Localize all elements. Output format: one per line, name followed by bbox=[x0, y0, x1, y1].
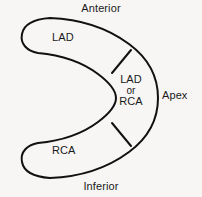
divider-lower bbox=[112, 123, 131, 146]
coronary-territory-diagram: Anterior Inferior Apex LAD RCA LAD or RC… bbox=[0, 0, 202, 197]
orientation-label-inferior: Inferior bbox=[0, 181, 202, 193]
segment-label-rca-lower: RCA bbox=[52, 145, 76, 157]
segment-label-lad-upper: LAD bbox=[52, 32, 74, 44]
apex-label-line-1: LAD bbox=[114, 74, 148, 86]
segment-label-lad-or-rca: LAD or RCA bbox=[114, 74, 148, 108]
orientation-label-anterior: Anterior bbox=[0, 3, 202, 15]
orientation-label-apex: Apex bbox=[162, 90, 187, 102]
divider-upper bbox=[112, 50, 131, 73]
apex-label-line-3: RCA bbox=[114, 96, 148, 108]
